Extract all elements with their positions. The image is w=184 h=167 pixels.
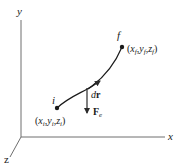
force-vector-label: Fe xyxy=(93,107,102,117)
final-point-coordinates: (xf,yf,zf) xyxy=(127,44,157,54)
initial-point-coordinates: (xi,yi,zi) xyxy=(35,116,65,126)
final-point-name: f xyxy=(117,30,120,41)
initial-point-name: i xyxy=(52,95,55,106)
work-path-diagram xyxy=(0,0,184,167)
displacement-vector-label: dr xyxy=(91,90,100,100)
displacement-vector-arrow xyxy=(88,81,100,89)
path-curve xyxy=(57,47,122,108)
z-axis-label: z xyxy=(4,154,9,165)
y-axis-label: y xyxy=(17,6,22,17)
z-axis xyxy=(10,137,21,157)
final-point xyxy=(120,45,124,49)
initial-point xyxy=(55,106,59,110)
x-axis-label: x xyxy=(168,131,173,142)
